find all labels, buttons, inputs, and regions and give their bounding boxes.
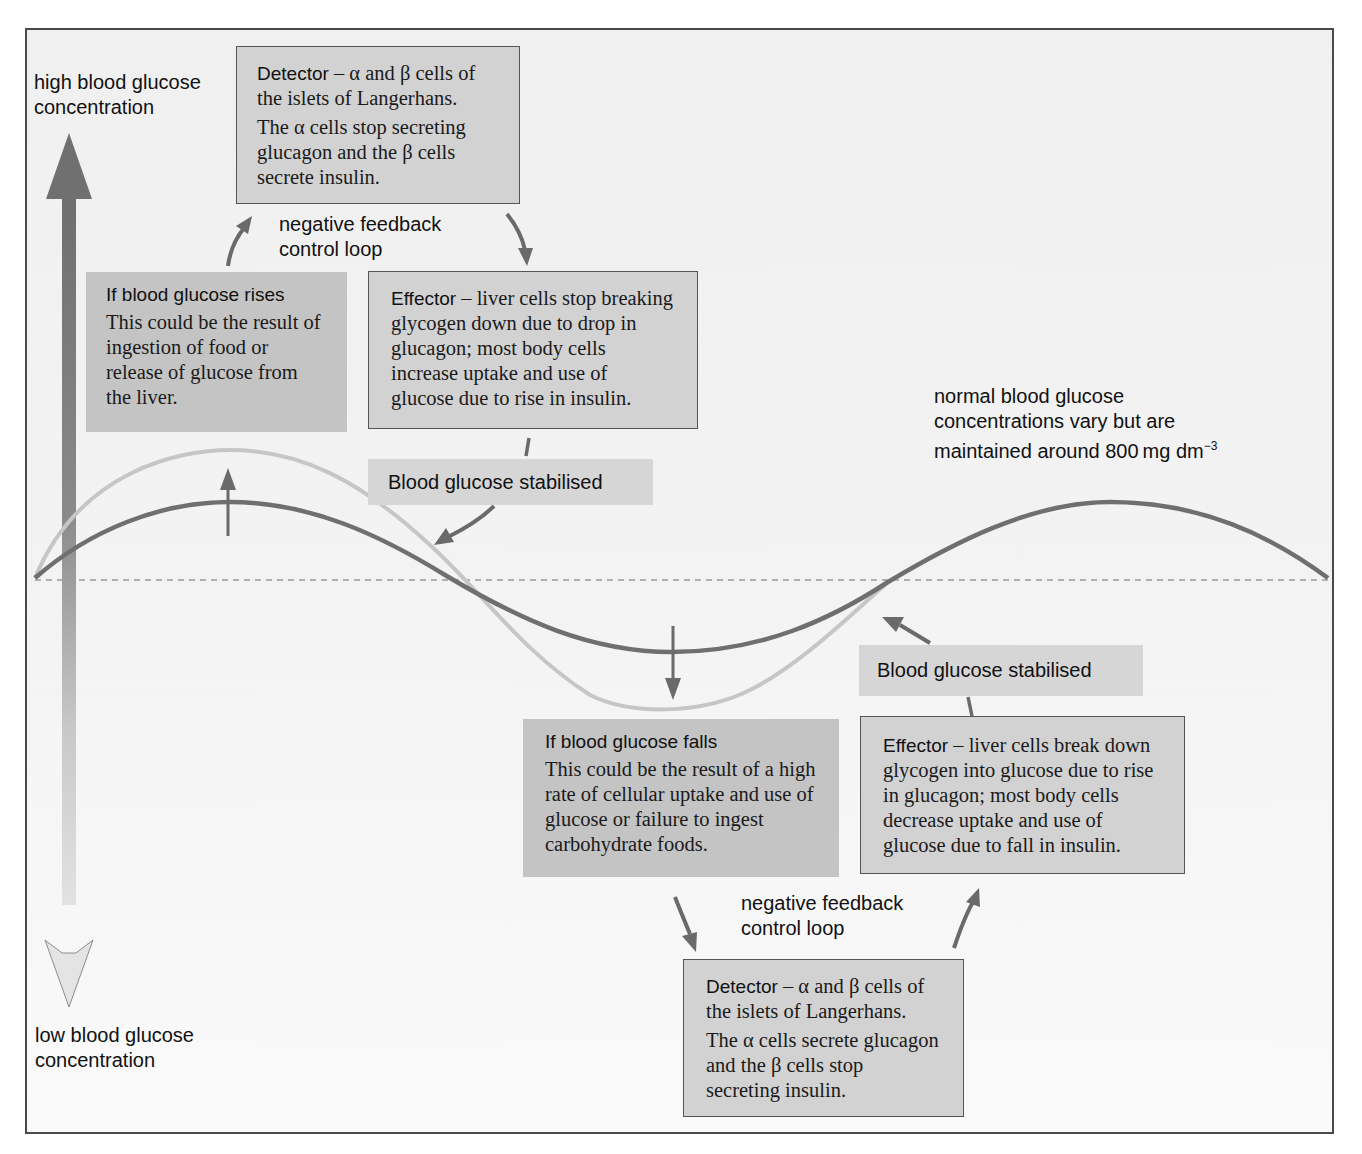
rise-trigger-detail: This could be the result of ingestion of… — [106, 310, 327, 410]
effector-to-stabilised-line — [526, 438, 529, 456]
fall-loop-label: negative feedback control loop — [741, 891, 903, 941]
rise-detector-title: Detector — [257, 63, 329, 84]
rise-stabilised-label: Blood glucose stabilised — [368, 459, 653, 505]
high-label-line2: concentration — [34, 95, 201, 120]
diagram-graphics — [0, 0, 1362, 1154]
loop-arrow-to-effector-bottom — [954, 888, 980, 948]
loop-arrow-to-detector — [228, 216, 252, 266]
fall-detector-title: Detector — [706, 976, 778, 997]
fall-effector-box: Effector – liver cells break down glycog… — [860, 716, 1185, 874]
low-concentration-label: low blood glucose concentration — [35, 1023, 194, 1073]
effector-to-stabilised-line-bottom — [968, 697, 972, 716]
vertical-axis-arrow — [45, 133, 93, 1007]
rise-effector-text: Effector – liver cells stop breaking gly… — [391, 286, 675, 411]
normal-concentration-note: normal blood glucose concentrations vary… — [934, 384, 1217, 464]
rise-detector-detail: The α cells stop secreting glucagon and … — [257, 115, 499, 190]
loop-arrow-to-detector-bottom — [675, 897, 697, 952]
fall-detector-heading: Detector – α and β cells of the islets o… — [706, 974, 941, 1024]
rise-detector-heading: Detector – α and β cells of the islets o… — [257, 61, 499, 111]
rise-trigger-title: If blood glucose rises — [106, 284, 327, 306]
rise-loop-label: negative feedback control loop — [279, 212, 441, 262]
rise-loop-label-line1: negative feedback — [279, 212, 441, 237]
fall-effector-title: Effector — [883, 735, 948, 756]
unit-exponent: −3 — [1204, 439, 1218, 453]
fall-loop-label-line1: negative feedback — [741, 891, 903, 916]
fall-stabilised-label: Blood glucose stabilised — [859, 645, 1143, 696]
rise-effector-title: Effector — [391, 288, 456, 309]
loop-arrow-to-effector — [507, 214, 533, 266]
rise-loop-label-line2: control loop — [279, 237, 441, 262]
fall-detector-detail: The α cells secrete glucagon and the β c… — [706, 1028, 941, 1103]
rise-detector-box: Detector – α and β cells of the islets o… — [236, 46, 520, 204]
fall-detector-box: Detector – α and β cells of the islets o… — [683, 959, 964, 1117]
high-concentration-label: high blood glucose concentration — [34, 70, 201, 120]
fall-trigger-title: If blood glucose falls — [545, 731, 817, 753]
normal-note-line1: normal blood glucose — [934, 384, 1217, 409]
rise-trigger-box: If blood glucose rises This could be the… — [86, 272, 347, 432]
fall-trigger-box: If blood glucose falls This could be the… — [523, 719, 839, 877]
low-label-line1: low blood glucose — [35, 1023, 194, 1048]
normal-note-line3: maintained around 800 mg dm−3 — [934, 434, 1217, 464]
rise-effector-box: Effector – liver cells stop breaking gly… — [368, 271, 698, 429]
fall-trigger-detail: This could be the result of a high rate … — [545, 757, 817, 857]
normal-note-line2: concentrations vary but are — [934, 409, 1217, 434]
normal-note-line3-text: maintained around 800 mg dm — [934, 440, 1204, 462]
stabilised-to-curve-arrow-bottom — [882, 617, 930, 643]
fall-down-arrow — [665, 626, 681, 700]
high-label-line1: high blood glucose — [34, 70, 201, 95]
low-label-line2: concentration — [35, 1048, 194, 1073]
fall-loop-label-line2: control loop — [741, 916, 903, 941]
fall-effector-text: Effector – liver cells break down glycog… — [883, 733, 1162, 858]
stabilised-to-curve-arrow — [434, 506, 494, 545]
